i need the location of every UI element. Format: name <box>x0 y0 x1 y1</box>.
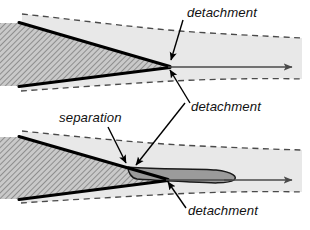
label-detachment-upper-top: detachment <box>187 5 258 20</box>
label-detachment-lower-bottom: detachment <box>188 203 259 218</box>
label-detachment-lower-top: detachment <box>191 99 262 114</box>
attached-flow-panel: detachment detachment <box>0 5 302 114</box>
cone-base-fill-bottom <box>0 137 21 199</box>
cone-base-fill-top <box>0 23 21 86</box>
figure-root: detachment detachment <box>0 0 310 230</box>
diagram-canvas: detachment detachment <box>0 0 310 230</box>
label-separation: separation <box>59 110 122 125</box>
separated-flow-panel: separation detachment <box>0 103 302 218</box>
